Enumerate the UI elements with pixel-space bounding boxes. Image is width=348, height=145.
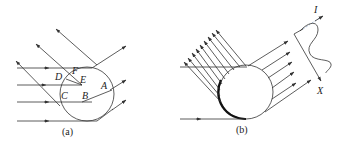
panel-a <box>16 29 126 121</box>
point-label-b: B <box>82 91 88 101</box>
point-label-d: D <box>55 72 62 82</box>
diagram-root: D F E C B A (a) I X (b) <box>0 0 348 145</box>
point-label-e: E <box>80 75 86 85</box>
caption-b: (b) <box>236 125 248 135</box>
caption-a: (a) <box>62 127 73 137</box>
point-label-c: C <box>61 91 68 101</box>
axis-label-i: I <box>314 5 317 15</box>
diagram-svg <box>0 0 348 145</box>
axis-label-x: X <box>317 86 323 96</box>
point-label-f: F <box>72 66 78 76</box>
point-label-a: A <box>101 81 107 91</box>
panel-b <box>180 16 331 119</box>
